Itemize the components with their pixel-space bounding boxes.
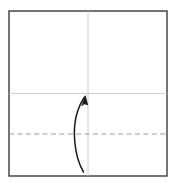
origami-diagram [0,0,178,186]
diagram-canvas [0,0,178,186]
